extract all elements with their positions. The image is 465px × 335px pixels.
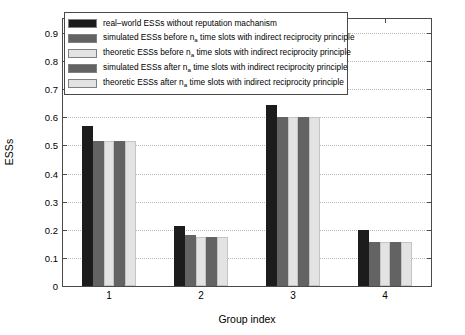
- y-tick-mark: [427, 286, 431, 287]
- bar: [114, 141, 125, 286]
- y-tick-mark: [63, 202, 67, 203]
- y-tick-mark: [63, 258, 67, 259]
- bar: [288, 117, 299, 286]
- legend-item: simulated ESSs before na time slots with…: [68, 31, 343, 46]
- y-tick-mark: [427, 61, 431, 62]
- y-tick-mark: [63, 145, 67, 146]
- legend-label: theoretic ESSs after na time slots with …: [103, 78, 344, 88]
- legend-label: simulated ESSs after na time slots with …: [103, 63, 348, 73]
- legend-item: theoretic ESSs after na time slots with …: [68, 76, 343, 91]
- y-tick-mark: [427, 89, 431, 90]
- bar: [309, 117, 320, 286]
- legend-item: real–world ESSs without reputation macha…: [68, 16, 343, 31]
- y-axis-title: ESSs: [3, 139, 15, 165]
- y-tick-mark: [427, 202, 431, 203]
- bar: [369, 242, 380, 286]
- bar: [298, 117, 309, 286]
- legend-label: theoretic ESSs before na time slots with…: [103, 48, 351, 58]
- x-tick-label: 1: [106, 290, 112, 301]
- bar: [266, 105, 277, 286]
- y-tick-label: 0.8: [45, 56, 58, 67]
- chart-legend: real–world ESSs without reputation macha…: [64, 12, 348, 95]
- y-tick-label: 0.6: [45, 112, 58, 123]
- y-tick-mark: [427, 174, 431, 175]
- y-tick-label: 0.4: [45, 168, 58, 179]
- y-tick-mark: [427, 258, 431, 259]
- legend-swatch: [68, 64, 97, 73]
- legend-swatch: [68, 79, 97, 88]
- bar: [380, 242, 391, 286]
- bar: [125, 141, 136, 286]
- x-tick-mark-top: [385, 19, 386, 23]
- y-tick-label: 0: [53, 281, 58, 292]
- bar: [174, 226, 185, 286]
- legend-label: simulated ESSs before na time slots with…: [103, 33, 355, 43]
- bar: [104, 141, 115, 286]
- chart-figure: ESSs Group index 00.10.20.30.40.50.60.70…: [0, 0, 465, 335]
- x-tick-label: 2: [198, 290, 204, 301]
- x-tick-label: 4: [382, 290, 388, 301]
- y-tick-mark: [427, 33, 431, 34]
- y-tick-mark: [63, 230, 67, 231]
- legend-item: simulated ESSs after na time slots with …: [68, 61, 343, 76]
- legend-swatch: [68, 34, 97, 43]
- y-tick-label: 0.9: [45, 28, 58, 39]
- gridline: [63, 117, 431, 118]
- bar: [401, 242, 412, 286]
- x-tick-label: 3: [290, 290, 296, 301]
- bar: [93, 141, 104, 286]
- bar: [217, 237, 228, 286]
- y-tick-label: 0.2: [45, 224, 58, 235]
- bar: [277, 117, 288, 286]
- y-tick-mark: [63, 174, 67, 175]
- y-tick-label: 0.7: [45, 84, 58, 95]
- y-tick-label: 0.3: [45, 196, 58, 207]
- y-tick-label: 0.1: [45, 252, 58, 263]
- y-tick-mark: [427, 145, 431, 146]
- y-tick-mark: [63, 117, 67, 118]
- x-axis-title: Group index: [218, 313, 275, 325]
- legend-item: theoretic ESSs before na time slots with…: [68, 46, 343, 61]
- bar: [82, 126, 93, 286]
- y-tick-label: 0.5: [45, 140, 58, 151]
- y-tick-mark: [427, 230, 431, 231]
- bar: [390, 242, 401, 286]
- bar: [196, 237, 207, 286]
- legend-swatch: [68, 49, 97, 58]
- bar: [206, 237, 217, 286]
- bar: [185, 235, 196, 286]
- y-tick-mark: [427, 117, 431, 118]
- legend-swatch: [68, 19, 97, 28]
- legend-label: real–world ESSs without reputation macha…: [103, 19, 277, 27]
- bar: [358, 230, 369, 286]
- y-tick-mark: [63, 286, 67, 287]
